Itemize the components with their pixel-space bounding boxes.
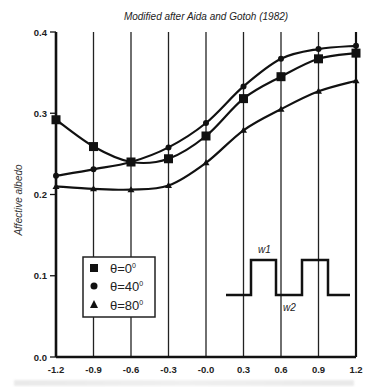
x-tick-label: -0.9	[85, 364, 101, 375]
circle-marker-icon	[128, 159, 134, 165]
square-marker-icon	[89, 142, 98, 151]
y-tick-label: 0.2	[34, 189, 47, 200]
chart-title: Modified after Aida and Gotoh (1982)	[124, 11, 288, 22]
square-wave-line	[226, 260, 350, 295]
legend: θ=00 θ=400 θ=800	[83, 257, 155, 317]
legend-label: θ=0	[110, 261, 132, 276]
circle-marker-icon	[241, 83, 247, 89]
y-axis-label: Affective albedo	[13, 164, 24, 237]
x-tick-label: -0.6	[123, 364, 139, 375]
circle-marker-icon	[316, 46, 322, 52]
figure-caption-cut-off	[14, 380, 354, 386]
square-marker-icon	[202, 132, 211, 141]
circle-marker-icon	[53, 173, 59, 179]
inset-square-wave: w1 w2	[226, 244, 350, 313]
x-tick-label: 0.9	[312, 364, 325, 375]
svg-text:θ=400: θ=400	[110, 279, 143, 294]
inset-label-w2: w2	[283, 302, 296, 313]
y-axis-ticks: 0.00.10.20.30.4	[34, 27, 56, 363]
legend-label: θ=40	[110, 279, 139, 294]
square-marker-icon	[239, 94, 248, 103]
x-tick-label: -0.0	[198, 364, 214, 375]
x-tick-label: -1.2	[48, 364, 64, 375]
square-marker-icon	[90, 264, 98, 272]
circle-marker-icon	[278, 56, 284, 62]
square-marker-icon	[352, 49, 361, 58]
legend-label: θ=80	[110, 298, 139, 313]
albedo-chart: Modified after Aida and Gotoh (1982) Aff…	[0, 0, 374, 387]
square-marker-icon	[277, 72, 286, 81]
x-tick-label: 0.3	[237, 364, 250, 375]
x-axis-ticks: -1.2-0.9-0.6-0.3-0.00.30.60.91.2	[48, 364, 363, 375]
circle-marker-icon	[91, 283, 98, 290]
circle-marker-icon	[353, 43, 359, 49]
x-tick-label: 1.2	[349, 364, 362, 375]
circle-marker-icon	[91, 166, 97, 172]
x-tick-label: -0.3	[160, 364, 176, 375]
square-marker-icon	[52, 115, 61, 124]
y-tick-label: 0.3	[34, 108, 47, 119]
square-marker-icon	[314, 54, 323, 63]
y-tick-label: 0.4	[34, 27, 48, 38]
svg-text:θ=800: θ=800	[110, 298, 143, 313]
square-marker-icon	[164, 154, 173, 163]
x-tick-label: 0.6	[274, 364, 287, 375]
y-tick-label: 0.1	[34, 270, 48, 281]
circle-marker-icon	[166, 144, 172, 150]
circle-marker-icon	[203, 120, 209, 126]
y-tick-label: 0.0	[34, 352, 47, 363]
inset-label-w1: w1	[258, 244, 271, 255]
triangle-marker-icon	[353, 77, 360, 83]
